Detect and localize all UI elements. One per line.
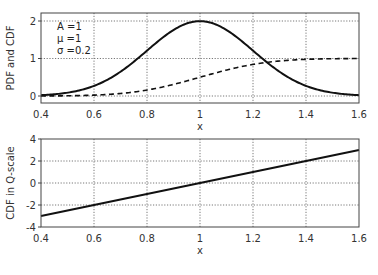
pdf-cdf-plot: 0120.40.60.811.21.41.6xPDF and CDFA =1μ … [5, 13, 367, 132]
y-tick-label: 0 [30, 91, 36, 102]
x-tick-label: 1 [197, 233, 203, 244]
y-axis-label: PDF and CDF [5, 25, 16, 90]
y-tick-label: -4 [26, 222, 36, 233]
x-tick-label: 1.6 [351, 233, 367, 244]
chart-canvas: 0120.40.60.811.21.41.6xPDF and CDFA =1μ … [0, 0, 378, 275]
x-tick-label: 0.6 [86, 233, 102, 244]
gridlines [41, 13, 359, 103]
x-tick-label: 0.6 [86, 109, 102, 120]
x-tick-label: 0.8 [139, 233, 155, 244]
y-tick-label: 4 [30, 134, 36, 145]
x-tick-label: 1.2 [245, 233, 261, 244]
parameter-annotation: σ =0.2 [57, 45, 91, 56]
parameter-annotation: μ =1 [57, 33, 81, 44]
y-tick-label: 2 [30, 16, 36, 27]
x-axis-label: x [197, 121, 203, 132]
y-tick-label: 1 [30, 53, 36, 64]
x-tick-label: 1 [197, 109, 203, 120]
x-tick-label: 0.4 [33, 109, 49, 120]
y-tick-label: 0 [30, 178, 36, 189]
x-tick-label: 0.4 [33, 233, 49, 244]
y-tick-label: -2 [26, 200, 36, 211]
y-axis-label: CDF in Q-scale [5, 146, 16, 219]
x-axis-label: x [197, 245, 203, 256]
x-tick-label: 1.4 [298, 233, 314, 244]
x-tick-label: 1.4 [298, 109, 314, 120]
x-tick-label: 1.6 [351, 109, 367, 120]
x-tick-label: 1.2 [245, 109, 261, 120]
q-scale-plot: -4-20240.40.60.811.21.41.6xCDF in Q-scal… [5, 134, 367, 257]
y-tick-label: 2 [30, 156, 36, 167]
parameter-annotation: A =1 [57, 21, 82, 32]
x-tick-label: 0.8 [139, 109, 155, 120]
